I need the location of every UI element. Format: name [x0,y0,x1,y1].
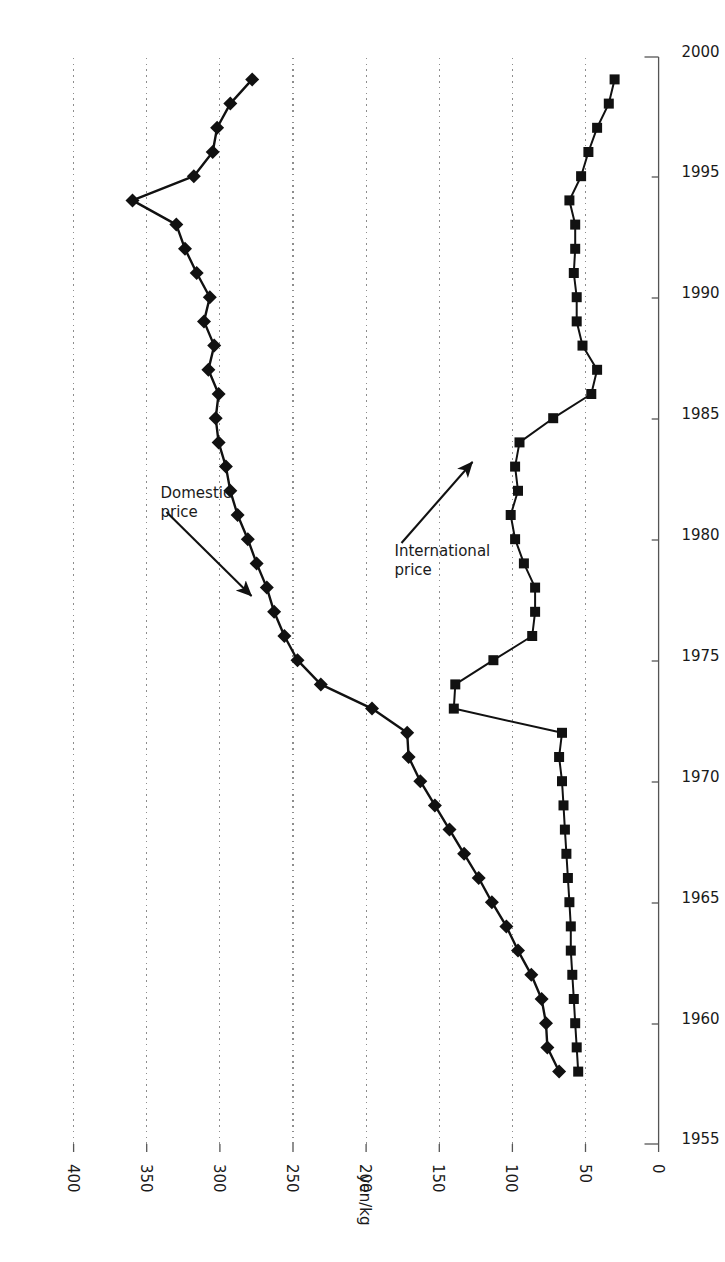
international-price-label-line1: International [394,542,490,560]
y-axis-title-text: yen/kg [356,1175,374,1226]
international-price-label-line2: price [394,561,431,579]
x-tick-1995: 1995 [681,163,719,181]
y-tick-350: 350 [136,1164,154,1193]
y-tick-150: 150 [429,1164,447,1193]
annotation-international-price: International price [394,542,490,579]
domestic-price-label-line2: price [160,503,197,521]
gridlines [73,57,585,1144]
x-tick-2000: 2000 [681,43,719,61]
y-tick-300: 300 [209,1164,227,1193]
domestic-price-markers [125,72,566,1078]
chart-canvas: Domestic price International price 1955 … [0,0,725,1262]
y-tick-0: 0 [648,1164,666,1174]
y-tick-400: 400 [63,1164,81,1193]
annotation-domestic-price: Domestic price [160,484,231,521]
domestic-price-label-line1: Domestic [160,484,231,502]
x-tick-1960: 1960 [681,1010,719,1028]
x-tick-1955: 1955 [681,1130,719,1148]
international-price-markers [448,74,619,1076]
y-tick-50: 50 [575,1164,593,1183]
x-tick-labels: 1955 1960 1965 1970 1975 1980 1985 1990 … [681,43,719,1148]
y-tick-100: 100 [502,1164,520,1193]
y-axis-ticks [73,1144,658,1152]
series-international-price [448,74,619,1076]
x-tick-1970: 1970 [681,768,719,786]
x-tick-1965: 1965 [681,889,719,907]
x-axis [644,57,658,1144]
plot-area: Domestic price International price 1955 … [0,0,725,1262]
y-axis-title: yen/kg [356,1175,374,1226]
international-price-arrow [401,462,472,543]
x-tick-1990: 1990 [681,284,719,302]
x-tick-1975: 1975 [681,647,719,665]
line-chart: Domestic price International price 1955 … [0,0,725,1262]
domestic-price-arrow [166,512,251,596]
x-tick-1980: 1980 [681,526,719,544]
x-tick-1985: 1985 [681,405,719,423]
y-tick-250: 250 [283,1164,301,1193]
figure-root: Domestic price International price 1955 … [0,0,725,1262]
series-domestic-price [125,72,566,1078]
